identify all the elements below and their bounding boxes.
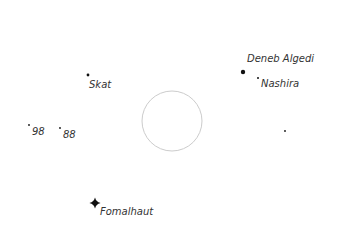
- star-label-nashira: Nashira: [261, 79, 299, 89]
- star-icon: [87, 74, 90, 77]
- star-label-fomalhaut: Fomalhaut: [100, 207, 153, 217]
- star-label-88: 88: [63, 130, 76, 140]
- star-label-98: 98: [32, 127, 45, 137]
- star-icon: [28, 124, 30, 126]
- field-of-view-circle: [142, 91, 202, 151]
- star-label-skat: Skat: [89, 80, 111, 90]
- star-icon: [257, 77, 259, 79]
- star-icon: [59, 127, 61, 129]
- star-label-deneb-algedi: Deneb Algedi: [247, 54, 314, 64]
- star-icon: [284, 130, 286, 132]
- star-icon: [241, 70, 245, 74]
- star-map: [0, 0, 339, 236]
